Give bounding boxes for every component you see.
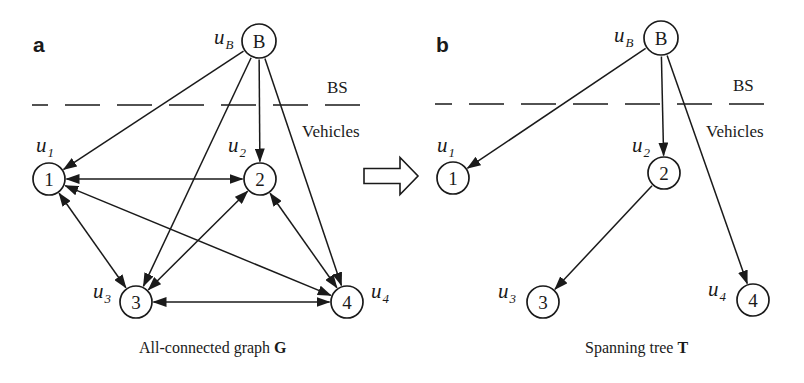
- bs-region-label: BS: [733, 76, 754, 95]
- node-3: 3u3: [498, 279, 559, 318]
- node-label: 2: [255, 169, 265, 190]
- directed-edge-B-3: [143, 58, 251, 286]
- node-variable-label: uB: [214, 25, 234, 52]
- node-label: B: [253, 31, 266, 52]
- panel-caption: All-connected graph G: [139, 339, 287, 357]
- node-2: 2u2: [632, 133, 680, 189]
- node-variable-label: u1: [36, 133, 54, 160]
- hollow-right-arrow-icon: [364, 158, 418, 195]
- directed-edge-B-2: [661, 56, 663, 155]
- node-B: BuB: [614, 21, 678, 55]
- node-label: 4: [748, 290, 758, 311]
- node-variable-label: u4: [708, 277, 727, 304]
- panel-b-spanning-tree: bBSVehiclesBuB1u12u23u34u4Spanning tree …: [435, 21, 770, 357]
- node-3: 3u3: [93, 279, 152, 318]
- vehicles-region-label: Vehicles: [706, 122, 764, 141]
- node-label: 3: [131, 292, 141, 313]
- node-variable-label: u3: [498, 279, 517, 306]
- node-B: BuB: [214, 24, 276, 58]
- node-label: 1: [44, 169, 54, 190]
- node-4: 4u4: [708, 277, 769, 316]
- directed-edge-B-1: [468, 48, 646, 168]
- node-variable-label: u2: [228, 133, 247, 160]
- node-label: B: [655, 28, 668, 49]
- edges: [468, 48, 748, 289]
- bs-region-label: BS: [327, 78, 348, 97]
- directed-edge-2-3: [555, 186, 652, 289]
- panel-a-all-connected-graph: aBSVehiclesBuB1u12u23u34u4All-connected …: [32, 24, 390, 357]
- node-2: 2u2: [228, 133, 276, 195]
- node-variable-label: u2: [632, 133, 651, 160]
- node-variable-label: u3: [93, 279, 112, 306]
- figure-canvas: aBSVehiclesBuB1u12u23u34u4All-connected …: [0, 0, 804, 383]
- node-label: 2: [659, 163, 669, 184]
- directed-edge-B-2: [259, 59, 260, 161]
- node-variable-label: u4: [371, 279, 390, 306]
- transition-arrow: [364, 158, 418, 195]
- directed-edge-B-1: [64, 51, 244, 169]
- panel-letter: a: [33, 33, 45, 56]
- node-variable-label: u1: [437, 133, 455, 160]
- edges: [59, 51, 341, 302]
- node-4: 4u4: [331, 279, 390, 318]
- panel-caption: Spanning tree T: [585, 339, 688, 357]
- node-label: 3: [538, 292, 548, 313]
- panel-letter: b: [436, 33, 449, 56]
- node-1: 1u1: [437, 133, 469, 194]
- node-variable-label: uB: [614, 23, 634, 50]
- bidirectional-edge-2-3: [148, 191, 247, 289]
- bidirectional-edge-1-3: [59, 193, 126, 287]
- network-figure: aBSVehiclesBuB1u12u23u34u4All-connected …: [0, 0, 804, 383]
- node-1: 1u1: [33, 133, 65, 195]
- node-label: 4: [342, 292, 352, 313]
- vehicles-region-label: Vehicles: [302, 122, 360, 141]
- node-label: 1: [448, 168, 458, 189]
